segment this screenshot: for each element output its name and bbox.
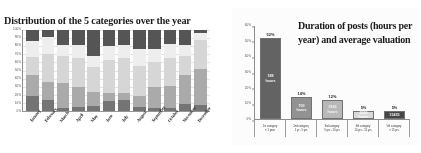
left-x-tick-cell: April: [70, 113, 85, 153]
left-bar-segment: [87, 30, 99, 56]
left-stacked-bar: [101, 30, 116, 111]
left-bar-segment: [26, 30, 38, 41]
right-bar-percent-label: 5%: [361, 106, 367, 110]
right-bar-value-label: 3530 hours: [354, 111, 373, 120]
left-bar-segment: [57, 56, 69, 83]
right-bar-percent-label: 12%: [329, 95, 337, 99]
left-stacked-bar: [178, 30, 193, 111]
left-x-tick-cell: October: [162, 113, 177, 153]
left-x-tick-cell: August: [131, 113, 146, 153]
left-bar-segment: [118, 30, 130, 45]
left-bar-segment: [57, 108, 69, 111]
scanned-page: Distribution of the 5 categories over th…: [0, 0, 421, 153]
left-y-tick: 50%: [2, 69, 21, 72]
left-x-tick-cell: July: [116, 113, 131, 153]
left-bar-segment: [42, 54, 54, 82]
left-y-tick: 90%: [2, 37, 21, 40]
left-y-tick: 60%: [2, 61, 21, 64]
right-x-tick-label: 3rd category 5 yrs - 10 yrs: [324, 125, 340, 132]
right-x-tick-cell: 4th category 10 yrs - 15 yrs: [348, 120, 379, 137]
left-y-tick: 70%: [2, 53, 21, 56]
left-x-tick-cell: November: [177, 113, 192, 153]
left-bar-segment: [118, 100, 130, 111]
right-bar-value-label: 188 hours: [261, 74, 280, 83]
right-bar-value-label: 2165 hours: [323, 105, 342, 114]
left-bar-segment: [194, 40, 206, 69]
left-bar-segment: [57, 30, 69, 45]
left-bar-segment: [194, 69, 206, 105]
right-bar-cell: 5%3530 hours: [348, 26, 379, 119]
left-bar-segment: [72, 45, 84, 58]
right-bar-cell: 14%700 hours: [286, 26, 317, 119]
left-bar-segment: [87, 56, 99, 67]
left-bar-segment: [148, 30, 160, 49]
left-bar-segment: [179, 45, 191, 56]
right-chart-plot-area: 52%188 hours14%700 hours12%2165 hours5%3…: [254, 26, 410, 120]
left-stacked-bar: [56, 30, 71, 111]
left-bar-segment: [164, 58, 176, 86]
left-bar-segment: [148, 49, 160, 62]
left-chart-title: Distribution of the 5 categories over th…: [4, 15, 224, 26]
left-bar-segment: [164, 30, 176, 44]
left-bar-segment: [72, 30, 84, 45]
right-x-tick-cell: 2nd category 1 yr - 5 yrs: [286, 120, 317, 137]
right-y-tick: 0%: [232, 118, 251, 121]
left-stacked-bar: [71, 30, 86, 111]
left-bar-segment: [133, 66, 145, 97]
left-y-tick: 0%: [2, 110, 21, 113]
right-chart-bars: 52%188 hours14%700 hours12%2165 hours5%3…: [255, 26, 410, 119]
right-bar-value-label: 700 hours: [292, 104, 311, 113]
left-stacked-bar: [117, 30, 132, 111]
right-y-tick: 10%: [232, 103, 251, 106]
right-y-tick: 20%: [232, 87, 251, 90]
left-x-tick-cell: May: [85, 113, 100, 153]
left-x-tick-cell: March: [55, 113, 70, 153]
left-y-tick: 30%: [2, 86, 21, 89]
left-bar-segment: [118, 58, 130, 93]
left-y-tick: 10%: [2, 102, 21, 105]
left-bar-segment: [103, 93, 115, 101]
left-bar-segment: [72, 87, 84, 107]
left-x-tick-label: June: [105, 113, 114, 123]
left-x-tick-cell: February: [39, 113, 54, 153]
left-x-tick-label: May: [89, 114, 98, 124]
left-bar-segment: [57, 45, 69, 56]
left-stacked-bar: [40, 30, 55, 111]
left-stacked-bar: [25, 30, 40, 111]
left-y-tick: 40%: [2, 78, 21, 81]
left-bar-segment: [164, 86, 176, 108]
right-bar: 15435: [384, 111, 405, 119]
left-x-tick-label: April: [74, 113, 84, 124]
left-x-tick-cell: January: [24, 113, 39, 153]
left-bar-segment: [179, 75, 191, 104]
left-bar-segment: [26, 41, 38, 56]
left-bar-segment: [103, 46, 115, 60]
left-bar-segment: [103, 60, 115, 93]
right-bar-value-label: 15435: [388, 113, 400, 117]
left-bar-segment: [118, 93, 130, 100]
right-bar-cell: 12%2165 hours: [317, 26, 348, 119]
left-bar-segment: [103, 101, 115, 111]
right-y-tick: 40%: [232, 56, 251, 59]
right-bar-percent-label: 14%: [298, 92, 306, 96]
right-bar: 2165 hours: [322, 100, 343, 119]
left-bar-segment: [87, 92, 99, 107]
right-chart-x-axis: 1st category < 1 year2nd category 1 yr -…: [254, 120, 410, 137]
right-x-tick-cell: 5th category > 15 yrs: [379, 120, 410, 137]
left-bar-segment: [179, 30, 191, 45]
left-chart-plot-area: [22, 30, 210, 112]
left-bar-segment: [118, 45, 130, 58]
left-bar-segment: [103, 30, 115, 46]
left-bar-segment: [42, 82, 54, 100]
left-bar-segment: [133, 30, 145, 49]
right-x-tick-label: 1st category < 1 year: [263, 125, 278, 132]
right-chart-duration: Duration of posts (hours per year) and a…: [232, 8, 418, 145]
left-x-tick-cell: June: [101, 113, 116, 153]
left-bar-segment: [87, 106, 99, 111]
left-chart-y-axis: 100%90%80%70%60%50%40%30%20%10%0%: [2, 27, 21, 115]
right-y-tick: 60%: [232, 24, 251, 27]
left-bar-segment: [148, 87, 160, 108]
left-y-tick: 100%: [2, 28, 21, 31]
left-bar-segment: [42, 37, 54, 55]
left-bar-segment: [179, 56, 191, 75]
